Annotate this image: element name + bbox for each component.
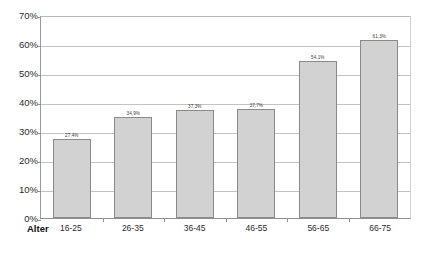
bar-value-label: 61,3% bbox=[372, 35, 386, 40]
x-axis-tick-mark bbox=[103, 218, 104, 222]
y-axis-tick-label: 50% bbox=[2, 69, 38, 79]
x-axis-tick-label: 56-65 bbox=[307, 224, 329, 233]
y-axis-tick-mark bbox=[37, 220, 41, 221]
bar-slot: 37,7% bbox=[226, 17, 288, 218]
y-axis-tick-label: 40% bbox=[2, 98, 38, 108]
bar[interactable] bbox=[53, 139, 91, 218]
x-axis-tick-label: 66-75 bbox=[369, 224, 391, 233]
x-axis-tick-label: 36-45 bbox=[184, 224, 206, 233]
bar-value-label: 54,1% bbox=[311, 56, 325, 61]
bar[interactable] bbox=[360, 40, 398, 218]
x-axis-tick-mark bbox=[164, 218, 165, 222]
bar-slot: 27,4% bbox=[41, 17, 103, 218]
plot-area: 27,4%34,9%37,3%37,7%54,1%61,3% bbox=[40, 16, 411, 219]
x-axis-tick-label: 26-35 bbox=[122, 224, 144, 233]
y-axis-tick-label: 20% bbox=[2, 156, 38, 166]
bar-slot: 34,9% bbox=[103, 17, 165, 218]
y-axis: 0%10%20%30%40%50%60%70% bbox=[0, 0, 38, 255]
bar[interactable] bbox=[114, 117, 152, 218]
bar-slot: 37,3% bbox=[164, 17, 226, 218]
y-axis-tick-label: 10% bbox=[2, 185, 38, 195]
y-axis-tick-label: 30% bbox=[2, 127, 38, 137]
x-axis-tick-mark bbox=[287, 218, 288, 222]
x-axis-tick-mark bbox=[349, 218, 350, 222]
x-axis-tick-label: 16-25 bbox=[60, 224, 82, 233]
bar-value-label: 37,3% bbox=[188, 105, 202, 110]
x-axis-tick-label: 46-55 bbox=[246, 224, 268, 233]
x-axis: 16-2526-3536-4546-5556-6566-75 bbox=[40, 224, 411, 244]
x-axis-tick-mark bbox=[226, 218, 227, 222]
bar[interactable] bbox=[237, 109, 275, 218]
x-axis-title: Alter bbox=[27, 224, 49, 234]
bar-slot: 61,3% bbox=[349, 17, 411, 218]
y-axis-tick-label: 70% bbox=[2, 11, 38, 21]
bar-slot: 54,1% bbox=[287, 17, 349, 218]
y-axis-tick-label: 60% bbox=[2, 40, 38, 50]
bar-value-label: 37,7% bbox=[249, 104, 263, 109]
bar-value-label: 27,4% bbox=[65, 134, 79, 139]
bar-value-label: 34,9% bbox=[126, 112, 140, 117]
bar[interactable] bbox=[176, 110, 214, 218]
bar[interactable] bbox=[299, 61, 337, 218]
bar-chart: 0%10%20%30%40%50%60%70% 27,4%34,9%37,3%3… bbox=[0, 0, 432, 255]
